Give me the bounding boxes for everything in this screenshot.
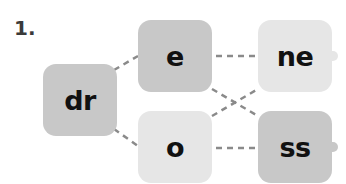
line-dr-e xyxy=(114,56,138,70)
line-dr-o xyxy=(114,129,138,146)
node-o: o xyxy=(138,111,212,183)
node-label: o xyxy=(166,132,184,163)
node-dr: dr xyxy=(43,64,117,136)
node-e: e xyxy=(138,20,212,92)
node-label: ne xyxy=(277,41,314,72)
node-label: ss xyxy=(279,132,310,163)
node-label: dr xyxy=(64,85,96,116)
node-ss: ss xyxy=(258,111,332,183)
node-label: e xyxy=(166,41,184,72)
node-ne: ne xyxy=(258,20,332,92)
